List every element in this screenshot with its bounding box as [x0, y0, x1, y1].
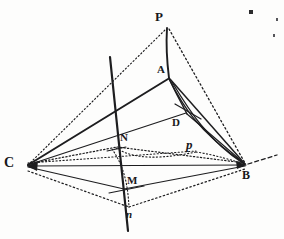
edge-a-to-b — [170, 79, 245, 164]
edge-c-to-b-base — [28, 165, 246, 166]
vertex-label-b: B — [242, 169, 250, 181]
edge-c-to-n-dotted — [28, 147, 117, 164]
point-label-d: D — [172, 117, 180, 128]
axis-line-pn — [110, 57, 128, 231]
edge-a-to-c — [28, 79, 168, 165]
vertex-label-c: C — [4, 156, 14, 170]
figure-linework — [0, 0, 284, 239]
triangle-a-sides — [28, 79, 245, 165]
point-label-n-lower: n — [126, 209, 132, 220]
ink-speck-3 — [273, 34, 275, 37]
point-label-n-upper: N — [120, 132, 128, 143]
point-label-p-lower: p — [186, 138, 193, 151]
edge-d-to-c — [28, 113, 186, 165]
point-label-m: M — [127, 175, 137, 186]
vertex-label-p: P — [155, 10, 163, 23]
ink-specks — [249, 10, 278, 37]
geometric-figure-canvas: P A D N p C B M n — [0, 0, 284, 239]
tick-mark-n — [107, 147, 126, 151]
vertex-label-a: A — [157, 64, 165, 75]
edge-c-to-p — [28, 29, 166, 165]
edge-m-to-b — [124, 166, 245, 189]
edge-c-to-m — [28, 167, 124, 189]
edge-p-to-a — [167, 28, 169, 78]
edge-d-to-b — [187, 114, 245, 164]
ink-speck-1 — [249, 10, 253, 14]
axis-extension-b — [248, 155, 277, 164]
edge-c-to-n-low — [28, 171, 129, 207]
dotted-p-lines — [28, 148, 245, 164]
edge-n-low-to-b — [129, 169, 245, 207]
ink-speck-2 — [276, 18, 278, 21]
